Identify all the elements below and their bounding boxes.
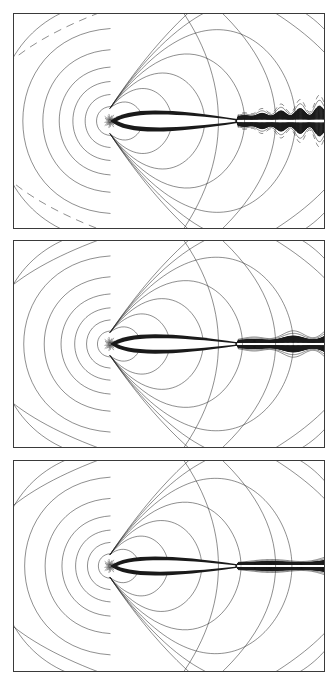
contour-panel-1 bbox=[13, 13, 325, 229]
contour-panel-2 bbox=[13, 240, 325, 448]
contour-panel-3 bbox=[13, 460, 325, 672]
figure-root bbox=[0, 0, 336, 680]
